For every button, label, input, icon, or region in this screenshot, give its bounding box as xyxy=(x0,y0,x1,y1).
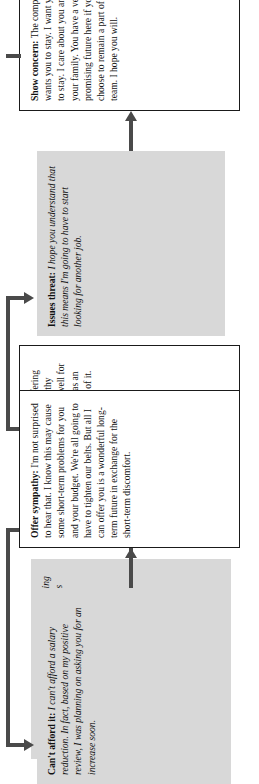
arrowhead-right-objection-2-to-response-2 xyxy=(125,111,137,121)
connector-riser-response-2 xyxy=(6,54,21,58)
response-box-show-concern: Show concern: The company wants you to s… xyxy=(19,0,240,111)
objection-label-2: Issues threat: xyxy=(46,272,57,327)
objection-text-1: Quid pro quo: What is the company offeri… xyxy=(39,568,79,750)
arrowhead-down-to-objection-2 xyxy=(24,292,34,304)
connector-line-objection-2-to-response-2 xyxy=(129,121,133,151)
diagram-canvas: Quid pro quo: What is the company offeri… xyxy=(0,0,259,784)
objection-box-issues-threat: Issues threat: I hope you understand tha… xyxy=(37,151,225,336)
connector-drop-to-objection-2 xyxy=(6,296,24,300)
connector-bridge-response-1-to-objection-2 xyxy=(6,296,10,431)
response-box-be-frank: Be frank: Frankly, we're offering you em… xyxy=(19,345,240,509)
objection-label-1: Quid pro quo: xyxy=(40,692,51,750)
response-label-1: Be frank: xyxy=(29,460,40,499)
objection-box-quid-pro-quo: Quid pro quo: What is the company offeri… xyxy=(31,559,231,759)
arrowhead-right-objection-1-to-response-1 xyxy=(125,510,137,520)
response-text-2: Show concern: The company wants you to s… xyxy=(28,0,120,101)
connector-line-objection-1-to-response-1 xyxy=(129,520,133,559)
diagram-rotation-wrapper: Quid pro quo: What is the company offeri… xyxy=(0,0,259,784)
response-text-1: Be frank: Frankly, we're offering you em… xyxy=(28,355,94,499)
response-body-2: The company wants you to stay. I want yo… xyxy=(29,0,119,101)
objection-text-2: Issues threat: I hope you understand tha… xyxy=(45,160,85,327)
response-label-2: Show concern: xyxy=(29,41,40,102)
